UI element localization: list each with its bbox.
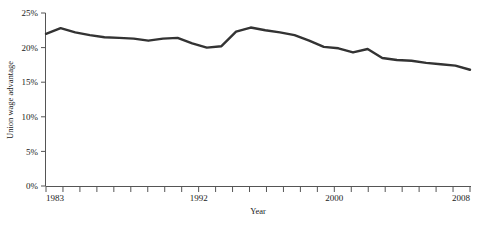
y-axis-tick-labels: 0%5%10%15%20%25% [22,8,39,191]
x-axis-tick-label: 1992 [190,193,208,203]
x-axis-ticks [46,187,470,193]
chart-container: 0%5%10%15%20%25% 1983199220002008 Union … [0,0,497,225]
y-axis-ticks [41,13,46,186]
x-axis-tick-label: 2000 [325,193,344,203]
x-axis-tick-label: 1983 [46,193,65,203]
y-axis-tick-label: 20% [22,43,39,53]
x-axis-tick-labels: 1983199220002008 [46,193,471,203]
x-axis-title: Year [250,206,266,216]
y-axis-tick-label: 10% [22,112,39,122]
x-axis-tick-label: 2008 [452,193,471,203]
y-axis-tick-label: 25% [22,8,39,18]
data-series-line [46,28,470,70]
line-chart: 0%5%10%15%20%25% 1983199220002008 Union … [0,0,497,225]
y-axis-tick-label: 15% [22,77,39,87]
y-axis-tick-label: 5% [26,147,39,157]
y-axis-tick-label: 0% [26,181,39,191]
y-axis-title: Union wage advantage [5,61,15,139]
